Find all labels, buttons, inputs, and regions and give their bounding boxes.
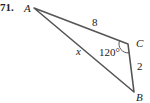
side-ac-label: 8: [92, 16, 98, 28]
side-ab-label: x: [75, 45, 81, 57]
vertex-c-label: C: [136, 37, 144, 49]
side-cb-label: 2: [137, 60, 143, 72]
triangle-diagram: A C B 8 2 x 120°: [0, 0, 150, 103]
angle-c-label: 120°: [99, 46, 120, 58]
vertex-a-label: A: [23, 2, 31, 14]
vertex-b-label: B: [136, 91, 143, 103]
